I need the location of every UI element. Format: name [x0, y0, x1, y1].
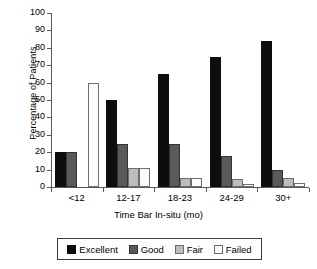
legend-label: Failed: [226, 244, 252, 255]
x-tick-label: 30+: [257, 192, 309, 203]
legend-item-fair[interactable]: Fair: [175, 244, 203, 255]
y-tick-label: 10: [35, 164, 45, 175]
bar-fair: [232, 179, 243, 187]
bar-group: [261, 13, 305, 187]
y-tick-label: 40: [35, 111, 45, 122]
bar-chart-figure: Percentage of Patients 01020304050607080…: [0, 0, 317, 269]
y-tick: 40: [51, 117, 52, 118]
y-tick-mark: [47, 100, 51, 101]
y-tick: 90: [51, 30, 52, 31]
legend-item-failed[interactable]: Failed: [214, 244, 252, 255]
legend-swatch-icon: [67, 245, 76, 254]
y-tick-label: 70: [35, 59, 45, 70]
x-tick-label: 18-23: [154, 192, 206, 203]
legend-label: Good: [141, 244, 164, 255]
bar-failed: [243, 184, 254, 187]
bar-fair: [283, 178, 294, 187]
y-tick-mark: [47, 48, 51, 49]
y-tick-label: 90: [35, 24, 45, 35]
y-tick: 50: [51, 100, 52, 101]
legend-item-good[interactable]: Good: [129, 244, 164, 255]
y-tick: 80: [51, 48, 52, 49]
bar-excellent: [106, 100, 117, 187]
bar-failed: [88, 83, 99, 187]
bar-group: [106, 13, 150, 187]
legend-label: Fair: [187, 244, 203, 255]
legend-item-excellent[interactable]: Excellent: [67, 244, 118, 255]
bar-good: [66, 152, 77, 187]
bar-good: [117, 144, 128, 187]
y-tick-mark: [47, 65, 51, 66]
bar-failed: [191, 178, 202, 187]
bar-excellent: [158, 74, 169, 187]
bar-group: [210, 13, 254, 187]
y-tick: 100: [51, 13, 52, 14]
legend-swatch-icon: [129, 245, 138, 254]
y-tick-label: 30: [35, 129, 45, 140]
x-tick-label: 24-29: [206, 192, 258, 203]
y-tick-mark: [47, 152, 51, 153]
y-tick: 20: [51, 152, 52, 153]
bar-good: [169, 144, 180, 187]
legend-swatch-icon: [214, 245, 223, 254]
y-tick-mark: [47, 13, 51, 14]
y-tick: 60: [51, 83, 52, 84]
y-tick: 30: [51, 135, 52, 136]
y-tick-label: 100: [30, 7, 45, 18]
y-tick-mark: [47, 30, 51, 31]
bar-fair: [128, 168, 139, 187]
x-axis-title: Time Bar In-situ (mo): [0, 209, 317, 220]
plot-area: 0102030405060708090100: [51, 13, 309, 188]
y-tick-label: 50: [35, 94, 45, 105]
y-tick-label: 80: [35, 42, 45, 53]
x-tick-label: <12: [51, 192, 103, 203]
bar-excellent: [210, 57, 221, 187]
y-tick: 70: [51, 65, 52, 66]
y-tick-label: 20: [35, 146, 45, 157]
bar-good: [272, 170, 283, 187]
y-tick-mark: [47, 83, 51, 84]
bar-good: [221, 156, 232, 187]
y-tick-mark: [47, 170, 51, 171]
legend-swatch-icon: [175, 245, 184, 254]
y-tick-mark: [47, 135, 51, 136]
bar-failed: [294, 183, 305, 187]
x-axis-line: [51, 187, 309, 188]
bar-group: [158, 13, 202, 187]
bar-fair: [180, 178, 191, 187]
y-tick-label: 0: [40, 181, 45, 192]
bar-group: [55, 13, 99, 187]
x-tick-mark: [309, 188, 310, 192]
y-tick-mark: [47, 117, 51, 118]
bar-excellent: [55, 152, 66, 187]
legend: ExcellentGoodFairFailed: [57, 238, 262, 260]
x-tick-label: 12-17: [103, 192, 155, 203]
bar-failed: [139, 168, 150, 187]
legend-label: Excellent: [79, 244, 118, 255]
y-tick: 10: [51, 170, 52, 171]
y-tick-label: 60: [35, 77, 45, 88]
bar-excellent: [261, 41, 272, 187]
